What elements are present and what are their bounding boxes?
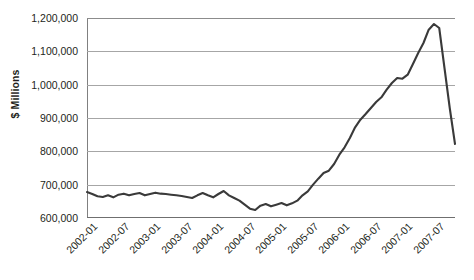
y-axis-tick-labels: 1,200,0001,100,0001,000,000900,000800,00… <box>0 18 82 218</box>
y-tick-label: 1,000,000 <box>31 79 78 91</box>
x-tick-label: 2002-07 <box>95 220 131 256</box>
y-tick-label: 700,000 <box>40 179 78 191</box>
data-series-line <box>87 18 455 218</box>
y-tick-label: 900,000 <box>40 112 78 124</box>
x-tick-label: 2007-01 <box>379 220 415 256</box>
y-tick-label: 800,000 <box>40 145 78 157</box>
plot-area <box>87 18 455 218</box>
x-tick-label: 2005-07 <box>285 220 321 256</box>
x-tick-label: 2004-01 <box>190 220 226 256</box>
line-chart: $ Millions 1,200,0001,100,0001,000,00090… <box>0 0 474 280</box>
x-tick-label: 2005-01 <box>253 220 289 256</box>
x-axis-tick-labels: 2002-012002-072003-012003-072004-012004-… <box>87 220 455 280</box>
x-tick-label: 2003-07 <box>158 220 194 256</box>
x-tick-label: 2004-07 <box>221 220 257 256</box>
y-tick-label: 1,200,000 <box>31 12 78 24</box>
x-tick-label: 2006-07 <box>348 220 384 256</box>
y-tick-label: 600,000 <box>40 212 78 224</box>
x-tick-label: 2002-01 <box>64 220 100 256</box>
x-tick-label: 2007-07 <box>411 220 447 256</box>
y-tick-label: 1,100,000 <box>31 45 78 57</box>
x-tick-label: 2003-01 <box>127 220 163 256</box>
x-tick-label: 2006-01 <box>316 220 352 256</box>
